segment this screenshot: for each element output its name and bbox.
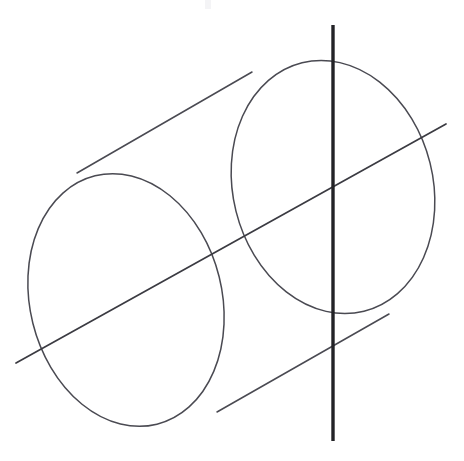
figure-canvas	[0, 0, 464, 461]
scan-artifact	[205, 0, 211, 9]
front-cap-ellipse	[2, 153, 250, 448]
upper-silhouette-line	[77, 72, 252, 173]
lower-silhouette-line	[217, 314, 389, 412]
cylinder-line-drawing	[0, 0, 464, 461]
front-ellipse-group	[2, 153, 250, 448]
